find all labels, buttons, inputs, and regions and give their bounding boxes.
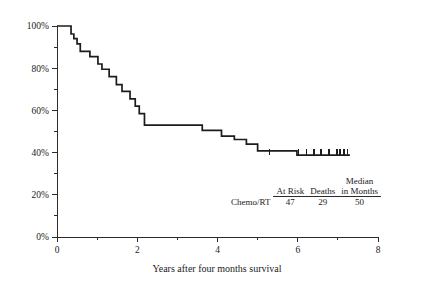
x-tick-label: 6 (295, 245, 300, 255)
x-tick-label: 8 (376, 245, 381, 255)
table-cell-empty (228, 186, 273, 197)
table-cell-empty (273, 176, 307, 186)
y-tick-label: 0% (36, 232, 49, 242)
row-label-chemo-rt: Chemo/RT (228, 197, 273, 208)
column-header-at-risk: At Risk (273, 186, 307, 197)
y-tick-label: 40% (32, 148, 50, 158)
censoring-marks (270, 149, 348, 155)
column-header-median-line2: in Months (338, 186, 381, 197)
risk-summary-table: Median At Risk Deaths in Months Chemo/RT… (228, 176, 381, 207)
cell-deaths: 29 (307, 197, 338, 208)
column-header-median-line1: Median (338, 176, 381, 186)
y-axis: 0%20%40%60%80%100% (27, 21, 57, 242)
cell-median-months: 50 (338, 197, 381, 208)
y-tick-label: 80% (32, 64, 50, 74)
y-tick-label: 20% (32, 190, 50, 200)
table-row-headers: At Risk Deaths in Months (228, 186, 381, 197)
survival-curve-group (57, 26, 350, 155)
table-cell-empty (228, 176, 273, 186)
x-tick-label: 2 (135, 245, 140, 255)
kaplan-meier-chart: 0%20%40%60%80%100% 02468 Years after fou… (0, 0, 427, 290)
table-row: Chemo/RT 47 29 50 (228, 197, 381, 208)
y-tick-label: 60% (32, 106, 50, 116)
x-axis-title: Years after four months survival (153, 263, 282, 274)
y-tick-label: 100% (27, 21, 49, 31)
y-axis-tick-labels: 0%20%40%60%80%100% (27, 21, 49, 242)
table-cell-empty (307, 176, 338, 186)
x-axis: 02468 (55, 237, 381, 255)
x-axis-tick-labels: 02468 (55, 245, 381, 255)
x-axis-major-ticks (57, 237, 378, 242)
x-tick-label: 0 (55, 245, 60, 255)
column-header-deaths: Deaths (307, 186, 338, 197)
table-row-median-header: Median (228, 176, 381, 186)
cell-at-risk: 47 (273, 197, 307, 208)
chart-canvas: 0%20%40%60%80%100% 02468 Years after fou… (0, 0, 427, 290)
x-tick-label: 4 (215, 245, 220, 255)
survival-curve-chemo-rt (57, 26, 350, 155)
